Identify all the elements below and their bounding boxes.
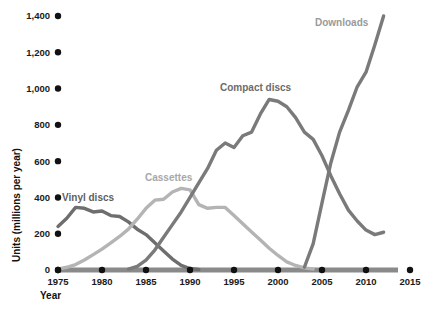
y-tick-label: 0 bbox=[45, 264, 50, 275]
series-label-cassettes: Cassettes bbox=[145, 172, 193, 183]
chart-page: 02004006008001,0001,2001,400 19751980198… bbox=[0, 0, 430, 313]
x-tick-dot bbox=[231, 267, 237, 273]
x-tick-label: 2005 bbox=[311, 276, 333, 287]
x-axis-title: Year bbox=[40, 290, 61, 301]
x-tick-dot bbox=[187, 267, 193, 273]
y-tick-dot bbox=[55, 231, 61, 237]
y-tick-dot bbox=[55, 49, 61, 55]
x-tick-label: 2010 bbox=[355, 276, 376, 287]
y-tick-label: 200 bbox=[34, 228, 50, 239]
x-tick-dot bbox=[99, 267, 105, 273]
y-tick-label: 1,200 bbox=[26, 47, 50, 58]
x-tick-label: 1995 bbox=[223, 276, 245, 287]
x-tick-dot bbox=[407, 267, 413, 273]
y-axis-title: Units (millions per year) bbox=[11, 148, 22, 262]
x-tick-dot bbox=[363, 267, 369, 273]
x-tick-dot bbox=[319, 267, 325, 273]
series-label-compact-discs: Compact discs bbox=[220, 82, 292, 93]
x-tick-label: 1975 bbox=[47, 276, 69, 287]
x-tick-label: 1985 bbox=[135, 276, 157, 287]
x-tick-label: 1990 bbox=[179, 276, 200, 287]
y-tick-dot bbox=[55, 85, 61, 91]
x-tick-label: 2000 bbox=[267, 276, 288, 287]
y-tick-label: 1,400 bbox=[26, 10, 50, 21]
x-tick-dot bbox=[143, 267, 149, 273]
x-tick-labels-group: 197519801985199019952000200520102015 bbox=[47, 276, 421, 287]
y-tick-label: 800 bbox=[34, 119, 50, 130]
y-tick-dot bbox=[55, 122, 61, 128]
y-tick-dot bbox=[55, 13, 61, 19]
series-line-compact-discs bbox=[128, 99, 383, 269]
x-tick-label: 1980 bbox=[91, 276, 112, 287]
x-tick-label: 2015 bbox=[399, 276, 421, 287]
y-tick-dot bbox=[55, 158, 61, 164]
y-tick-dot bbox=[55, 194, 61, 200]
x-tick-dot bbox=[55, 267, 61, 273]
series-lines-group bbox=[58, 16, 384, 269]
y-tick-label: 600 bbox=[34, 156, 50, 167]
media-formats-line-chart: 02004006008001,0001,2001,400 19751980198… bbox=[0, 0, 430, 313]
series-labels-group: Vinyl discsCassettesCompact discsDownloa… bbox=[62, 17, 369, 203]
series-label-vinyl-discs: Vinyl discs bbox=[62, 192, 115, 203]
y-tick-label: 1,000 bbox=[26, 83, 50, 94]
y-tick-label: 400 bbox=[34, 192, 50, 203]
y-tick-labels-group: 02004006008001,0001,2001,400 bbox=[26, 10, 50, 275]
y-tick-dots-group bbox=[55, 13, 61, 273]
series-label-downloads: Downloads bbox=[315, 17, 369, 28]
x-tick-dot bbox=[275, 267, 281, 273]
